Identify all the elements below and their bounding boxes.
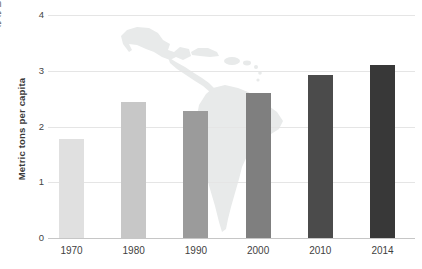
y-tick-label: 0 [0, 232, 44, 244]
y-tick-label: 3 [0, 65, 44, 77]
y-axis-title: Metric tons per capita [16, 78, 27, 181]
bar-2010 [308, 75, 333, 238]
x-tick-label: 2000 [236, 245, 280, 257]
emissions-bar-chart: 01234197019801990200020102014 Metric ton… [0, 0, 422, 269]
x-tick-label: 1970 [50, 245, 94, 257]
gridline-y3 [48, 71, 415, 72]
x-tick-label: 2014 [361, 245, 405, 257]
x-tick-label: 1980 [112, 245, 156, 257]
bar-1980 [121, 102, 146, 238]
gridline-y4 [48, 15, 415, 16]
x-axis-line [48, 238, 415, 239]
x-tick-label: 2010 [298, 245, 342, 257]
gridline-y1 [48, 182, 415, 183]
y-tick-label: 4 [0, 9, 44, 21]
bar-2000 [246, 93, 271, 238]
bar-1970 [59, 139, 84, 238]
x-tick-label: 1990 [174, 245, 218, 257]
gridline-y2 [48, 127, 415, 128]
document-figure-crop: n e e 01234197019 [0, 0, 422, 269]
bar-2014 [370, 65, 395, 238]
bar-1990 [183, 111, 208, 238]
